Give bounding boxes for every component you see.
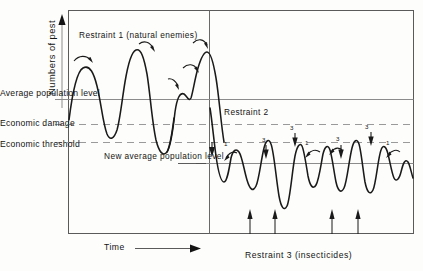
new-average-population-level-label: New average population level xyxy=(104,152,182,161)
economic-threshold-label: Economic threshold xyxy=(0,140,64,150)
x-axis-arrowhead-icon xyxy=(190,245,201,253)
economic-damage-label: Economic damage xyxy=(0,119,64,129)
plot-frame xyxy=(69,11,414,234)
phase1-arc-arrow-group xyxy=(74,40,208,90)
y-axis-arrowhead-icon xyxy=(58,14,65,25)
restraint3-arrow-4-head-icon xyxy=(355,209,360,219)
marker-number-3a: 3 xyxy=(262,137,265,144)
phase2-population-curve xyxy=(210,108,413,209)
phase1-curve-detail xyxy=(167,118,174,152)
marker-number-1b: 1 xyxy=(305,140,308,147)
x-axis-title: Time xyxy=(104,243,125,253)
natural-enemy-marker-1-head-icon xyxy=(224,155,230,162)
phase2-natural-enemy-marker-group xyxy=(224,148,400,161)
pest-population-diagram: Numbers of pest Average population level… xyxy=(0,0,423,271)
average-population-level-label: Average population level xyxy=(0,89,64,99)
restraint3-arrow-1-head-icon xyxy=(247,209,252,219)
marker-number-1a: 1 xyxy=(224,141,227,148)
phase1-population-curve xyxy=(69,50,224,154)
restraint3-arrow-2-head-icon xyxy=(272,209,277,219)
restraint3-application-arrow-group xyxy=(247,209,360,234)
natural-enemy-arc-3-head-icon xyxy=(175,84,179,91)
insecticide-marker-4-head-icon xyxy=(368,137,373,147)
restraint1-label: Restraint 1 (natural enemies) xyxy=(79,31,198,40)
restraint2-label: Restraint 2 xyxy=(224,108,269,117)
marker-number-1c: 1 xyxy=(386,140,389,147)
restraint3-arrow-3-head-icon xyxy=(329,209,334,219)
marker-number-3d: 3 xyxy=(365,124,368,131)
phase2-insecticide-marker-group xyxy=(209,132,374,159)
natural-enemy-arc-2-head-icon xyxy=(150,46,155,53)
restraint3-label: Restraint 3 (insecticides) xyxy=(245,251,352,261)
insecticide-marker-1-head-icon xyxy=(263,150,268,160)
natural-enemy-arc-5-head-icon xyxy=(204,42,208,49)
marker-number-3c: 3 xyxy=(336,136,339,143)
diagram-canvas xyxy=(0,0,423,271)
marker-number-3b: 3 xyxy=(290,125,293,132)
